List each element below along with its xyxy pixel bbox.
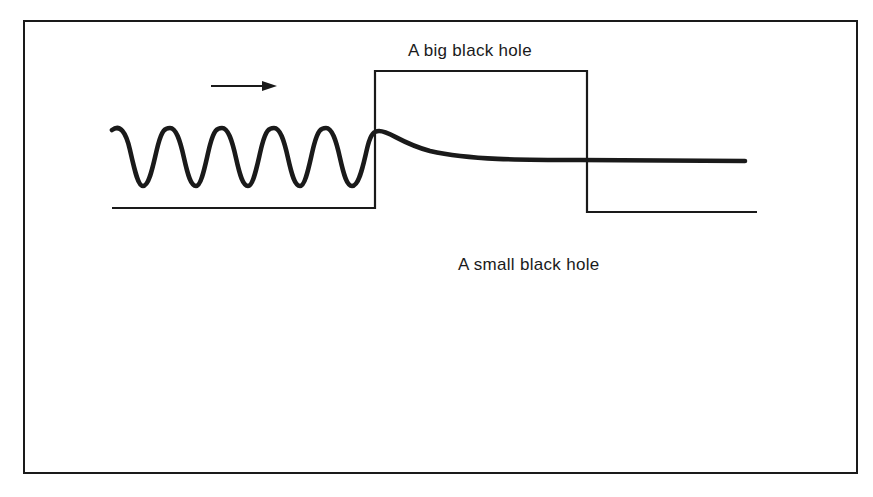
- black-hole-barrier-diagram: [0, 0, 873, 497]
- right-arrow-icon: [211, 81, 277, 91]
- big-black-hole-label: A big black hole: [408, 41, 532, 61]
- small-black-hole-label: A small black hole: [458, 255, 599, 275]
- figure-frame: [24, 21, 857, 473]
- panel-big-black-hole: [112, 71, 757, 212]
- big-incident-wave: [112, 128, 745, 186]
